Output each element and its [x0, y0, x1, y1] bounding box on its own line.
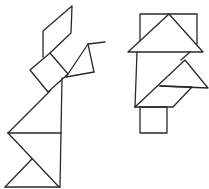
tangram-diagram: [0, 0, 209, 189]
middle-triangle: [135, 60, 208, 107]
left-edge: [135, 52, 137, 107]
upper-body-hypotenuse: [8, 91, 50, 133]
arm-inner-edge: [88, 44, 94, 72]
base-square: [140, 107, 167, 133]
arm-bottom-edge: [66, 72, 94, 77]
top-rectangle: [140, 14, 197, 44]
top-large-triangle: [128, 14, 203, 52]
middle-triangle-tip: [181, 52, 190, 60]
figure-right: [128, 14, 208, 133]
lower-body-diagonal: [8, 133, 59, 187]
lower-parallelogram: [135, 86, 192, 107]
triangle-arm: [66, 42, 105, 77]
figure-left: [5, 6, 105, 187]
parallelogram-head-top: [43, 6, 72, 57]
foot-edge: [5, 159, 32, 187]
